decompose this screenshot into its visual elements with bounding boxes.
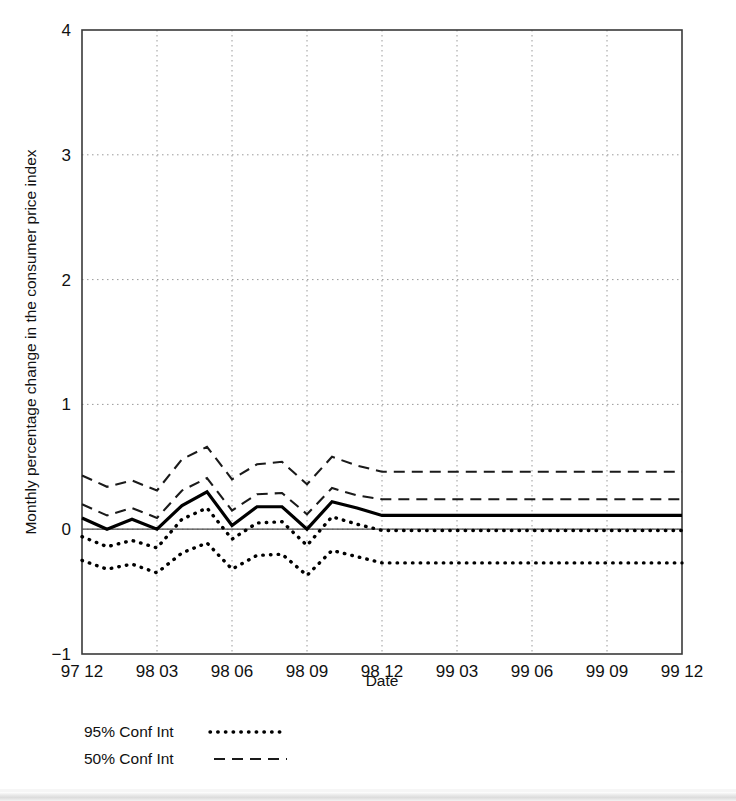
y-tick-2: 2 [62,271,71,290]
y-tick-1: 3 [62,146,71,165]
x-tick-2: 98 06 [211,662,254,681]
x-tick-1: 98 03 [136,662,179,681]
x-tick-5: 99 03 [436,662,479,681]
chart-figure: 43210−1 97 1298 0398 0698 0998 1299 0399… [0,0,736,801]
cpi-fan-chart: 43210−1 97 1298 0398 0698 0998 1299 0399… [0,0,736,801]
x-tick-0: 97 12 [61,662,104,681]
legend-label-50: 50% Conf Int [84,750,174,767]
x-tick-7: 99 09 [586,662,629,681]
scan-artifact-band [0,792,736,801]
y-tick-4: 0 [62,520,71,539]
x-tick-8: 99 12 [661,662,704,681]
y-axis-title: Monthly percentage change in the consume… [22,149,39,534]
y-tick-0: 4 [62,21,71,40]
legend-label-95: 95% Conf Int [84,723,174,740]
x-axis-title: Date [366,672,399,689]
x-tick-3: 98 09 [286,662,329,681]
x-tick-6: 99 06 [511,662,554,681]
y-tick-3: 1 [62,395,71,414]
